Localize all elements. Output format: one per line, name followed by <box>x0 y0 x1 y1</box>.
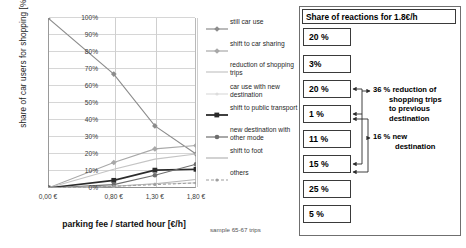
gridline-v <box>197 18 198 187</box>
x-tick-label: 0,80 € <box>92 193 136 200</box>
legend-item[interactable]: shift to public transport <box>206 106 298 128</box>
figure-root: share of car users for shopping [%] 0%10… <box>0 0 466 248</box>
legend-marker-icon <box>206 85 228 95</box>
reaction-share-box: 1 % <box>303 105 351 123</box>
legend-item-label: reduction of shopping trips <box>230 61 302 77</box>
series-marker <box>194 162 196 167</box>
legend-item[interactable]: shift to car sharing <box>206 42 298 64</box>
legend-item[interactable]: car use with new destination <box>206 85 298 107</box>
series-marker <box>153 183 156 186</box>
reaction-group-note: 36 % reduction ofshopping tripsto previo… <box>373 85 459 123</box>
legend-item-label: others <box>230 169 302 177</box>
legend-item-label: shift to car sharing <box>230 40 302 48</box>
y-tick-label: 30% <box>70 133 98 140</box>
x-axis-label: parking fee / started hour [€/h] <box>24 219 224 229</box>
series-marker <box>153 173 158 178</box>
y-tick-label: 40% <box>70 116 98 123</box>
legend-marker-icon <box>206 20 228 30</box>
series-marker <box>111 178 116 183</box>
legend-marker-icon <box>206 106 228 116</box>
reaction-group-note: 16 % newdestination <box>373 132 459 151</box>
legend-item[interactable]: shift to foot <box>206 149 298 171</box>
legend-marker-icon <box>206 42 228 52</box>
reaction-share-box: 15 % <box>303 155 351 173</box>
x-tick-label: 1,30 € <box>133 193 177 200</box>
reaction-share-box: 11 % <box>303 130 351 148</box>
reaction-share-box: 5 % <box>303 205 351 223</box>
y-tick-label: 10% <box>70 167 98 174</box>
y-tick-label: 50% <box>70 99 98 106</box>
legend-marker-icon <box>206 149 228 159</box>
reaction-share-box: 20 % <box>303 28 351 46</box>
chart-legend: still car useshift to car sharingreducti… <box>206 20 298 192</box>
series-marker <box>152 168 157 173</box>
legend-marker-icon <box>206 171 228 181</box>
legend-item[interactable]: others <box>206 171 298 193</box>
y-tick-label: 80% <box>70 48 98 55</box>
reaction-share-box: 20 % <box>303 80 351 98</box>
series-marker <box>195 181 197 184</box>
x-tick-label: 0,00 € <box>26 193 70 200</box>
y-axis-label: share of car users for shopping [%] <box>19 0 28 138</box>
y-tick-label: 60% <box>70 82 98 89</box>
y-tick-label: 70% <box>70 65 98 72</box>
series-marker <box>152 146 158 152</box>
legend-item-label: car use with new destination <box>230 83 302 99</box>
legend-item-label: still car use <box>230 18 302 26</box>
reaction-share-box: 25 % <box>303 180 351 198</box>
legend-item-label: new destination with other mode <box>230 126 302 142</box>
series-marker <box>194 167 196 172</box>
sample-note: sample 65-67 trips <box>210 226 261 233</box>
legend-marker-icon <box>206 63 228 73</box>
x-tick-label: 1,80 € <box>174 193 218 200</box>
legend-item[interactable]: reduction of shopping trips <box>206 63 298 85</box>
reaction-share-box: 3% <box>303 55 351 73</box>
series-marker <box>111 160 117 166</box>
legend-item[interactable]: new destination with other mode <box>206 128 298 150</box>
legend-item-label: shift to public transport <box>230 104 302 112</box>
y-tick-label: 20% <box>70 150 98 157</box>
legend-item-label: shift to foot <box>230 147 302 155</box>
series-marker <box>112 185 115 188</box>
reactions-panel: Share of reactions for 1.8€/h 20 %3%20 %… <box>299 6 461 236</box>
series-marker <box>193 143 196 149</box>
legend-marker-icon <box>206 128 228 138</box>
y-tick-label: 0% <box>70 184 98 191</box>
y-tick-label: 100% <box>70 14 98 21</box>
y-tick-label: 90% <box>70 31 98 38</box>
legend-item[interactable]: still car use <box>206 20 298 42</box>
